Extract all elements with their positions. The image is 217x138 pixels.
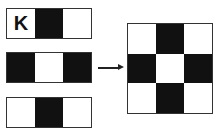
- strip-label: K: [7, 12, 35, 35]
- strip-cell-white: [35, 53, 63, 82]
- result-grid: [127, 23, 213, 114]
- grid-cell-white: [184, 24, 212, 54]
- strip-cell-black: [7, 53, 35, 82]
- strip-cell-white: [63, 98, 91, 127]
- strip-cell-white: K: [7, 9, 35, 38]
- arrow-head: [118, 64, 124, 70]
- grid-cell-white: [128, 24, 156, 54]
- strip-cell-black: [63, 53, 91, 82]
- right-arrow-icon: [98, 66, 124, 69]
- grid-cell-white: [184, 83, 212, 113]
- strip-bottom: [6, 97, 92, 128]
- strip-cell-white: [63, 9, 91, 38]
- grid-cell-black: [184, 54, 212, 84]
- strip-cell-black: [35, 98, 63, 127]
- grid-cell-white: [128, 83, 156, 113]
- grid-cell-black: [156, 83, 184, 113]
- strip-cell-white: [7, 98, 35, 127]
- strip-top: K: [6, 8, 92, 39]
- strip-middle: [6, 52, 92, 83]
- grid-cell-black: [128, 54, 156, 84]
- grid-cell-black: [156, 24, 184, 54]
- grid-cell-white: [156, 54, 184, 84]
- strip-cell-black: [35, 9, 63, 38]
- arrow-shaft: [98, 67, 120, 69]
